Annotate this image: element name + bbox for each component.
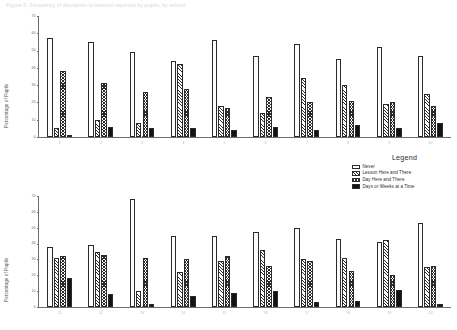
bar-group: 2 xyxy=(80,16,121,137)
y-tick-mark xyxy=(37,275,39,276)
bar-top-10-s2 xyxy=(431,106,436,137)
y-tick-mark xyxy=(37,102,39,103)
bar-top-8-s1 xyxy=(342,85,347,137)
y-tick-mark xyxy=(37,16,39,17)
y-axis-label-top: Percentage of Pupils xyxy=(4,84,9,128)
x-tick-label: 1 xyxy=(59,141,61,146)
bar-bottom-14-s1 xyxy=(177,272,182,307)
legend-swatch-checkerboard xyxy=(352,178,360,182)
bar-bottom-13-s1 xyxy=(136,291,141,307)
bar-group: 5 xyxy=(204,16,245,137)
y-axis-label-bottom: Percentage of Pupils xyxy=(4,258,9,302)
x-tick-label: 4 xyxy=(182,141,184,146)
x-tick-mark xyxy=(266,136,267,138)
y-tick-label: 40 xyxy=(31,65,35,71)
y-tick-label: 0 xyxy=(33,134,35,140)
bar-top-8-s0 xyxy=(336,59,341,137)
bar-bottom-16-s1 xyxy=(260,250,265,307)
bar-bottom-14-s0 xyxy=(171,236,176,307)
x-tick-mark xyxy=(348,136,349,138)
bar-bottom-14-s2 xyxy=(184,259,189,307)
bar-bottom-12-s1 xyxy=(95,252,100,308)
bar-top-1-s0 xyxy=(47,38,52,137)
y-tick-label: 70 xyxy=(31,13,35,19)
bar-top-4-s1 xyxy=(177,64,182,137)
bar-group: 13 xyxy=(121,196,162,307)
bar-bottom-18-s0 xyxy=(336,239,341,307)
bar-top-7-s0 xyxy=(294,44,299,137)
bar-group: 20 xyxy=(410,196,451,307)
bar-bottom-20-s2 xyxy=(431,266,436,307)
y-tick-label: 70 xyxy=(31,193,35,199)
bar-top-6-s1 xyxy=(260,113,265,137)
bar-group: 17 xyxy=(286,196,327,307)
bar-group: 12 xyxy=(80,196,121,307)
bar-top-1-s1 xyxy=(54,128,59,137)
x-tick-label: 11 xyxy=(58,311,62,316)
bar-bottom-11-s0 xyxy=(47,247,52,307)
x-tick-mark xyxy=(60,306,61,308)
y-tick-mark xyxy=(37,33,39,34)
bar-bottom-13-s2 xyxy=(143,258,148,307)
x-tick-mark xyxy=(348,306,349,308)
x-tick-mark xyxy=(142,306,143,308)
x-tick-mark xyxy=(266,306,267,308)
x-tick-label: 17 xyxy=(305,311,309,316)
legend-label: Days or Weeks at a Time xyxy=(362,184,414,190)
bar-top-10-s3 xyxy=(437,123,442,137)
bar-bottom-13-s0 xyxy=(130,199,135,307)
bar-top-9-s3 xyxy=(396,128,401,137)
chart-panel-bottom: Percentage of Pupils 1112131415161718192… xyxy=(0,190,457,330)
y-tick-label: 50 xyxy=(31,47,35,53)
legend-label: Day Here and There xyxy=(362,177,404,183)
legend-swatch-solid-black xyxy=(352,184,360,188)
y-tick-mark xyxy=(37,212,39,213)
bar-group: 4 xyxy=(163,16,204,137)
bar-top-7-s3 xyxy=(314,130,319,137)
y-tick-mark xyxy=(37,137,39,138)
legend-item-1: Lesson Here and There xyxy=(352,170,457,177)
x-tick-mark xyxy=(183,306,184,308)
bar-bottom-15-s2 xyxy=(225,256,230,307)
bar-group: 1 xyxy=(39,16,80,137)
bar-top-2-s0 xyxy=(88,42,93,137)
bar-bottom-19-s3 xyxy=(396,290,401,307)
bar-top-6-s0 xyxy=(253,56,258,137)
bar-top-4-s2 xyxy=(184,89,189,137)
bar-bottom-13-s3 xyxy=(149,304,154,307)
x-tick-mark xyxy=(389,136,390,138)
legend: Legend NeverLesson Here and ThereDay Her… xyxy=(352,153,457,190)
bar-bottom-12-s2 xyxy=(101,255,106,307)
bar-top-9-s1 xyxy=(383,104,388,137)
bar-top-5-s0 xyxy=(212,40,217,137)
x-tick-label: 16 xyxy=(264,311,268,316)
bar-bottom-17-s2 xyxy=(307,261,312,307)
bar-bottom-16-s2 xyxy=(266,266,271,307)
y-tick-mark xyxy=(37,68,39,69)
bar-groups-bottom: 11121314151617181920 xyxy=(39,196,451,307)
y-tick-mark xyxy=(37,291,39,292)
x-tick-mark xyxy=(224,306,225,308)
bar-top-2-s3 xyxy=(108,127,113,137)
bar-bottom-16-s3 xyxy=(273,291,278,307)
x-tick-label: 7 xyxy=(306,141,308,146)
page-title: Figure 5. Frequency of disruption to les… xyxy=(6,0,451,10)
x-tick-label: 13 xyxy=(140,311,144,316)
bar-top-3-s1 xyxy=(136,123,141,137)
y-tick-label: 0 xyxy=(33,304,35,310)
bar-bottom-14-s3 xyxy=(190,296,195,307)
y-tick-label: 60 xyxy=(31,30,35,36)
bar-top-3-s3 xyxy=(149,128,154,137)
x-tick-label: 19 xyxy=(387,311,391,316)
legend-label: Never xyxy=(362,164,374,170)
bar-bottom-12-s0 xyxy=(88,245,93,307)
bar-group: 8 xyxy=(327,16,368,137)
bar-bottom-11-s3 xyxy=(67,278,72,307)
y-tick-mark xyxy=(37,228,39,229)
legend-rows: NeverLesson Here and ThereDay Here and T… xyxy=(352,164,457,190)
y-tick-label: 30 xyxy=(31,82,35,88)
x-tick-label: 14 xyxy=(181,311,185,316)
x-tick-mark xyxy=(389,306,390,308)
bar-top-9-s2 xyxy=(390,102,395,137)
bar-bottom-15-s3 xyxy=(231,293,236,307)
